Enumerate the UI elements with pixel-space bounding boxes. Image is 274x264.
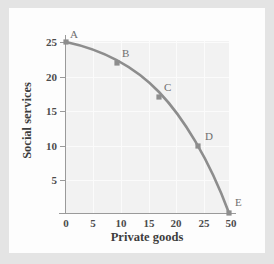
y-axis-line <box>65 35 66 214</box>
y-axis-tick <box>60 146 66 147</box>
x-tick-label-25: 25 <box>194 217 214 229</box>
gridline-horizontal <box>66 42 229 43</box>
x-axis-line <box>59 213 236 214</box>
y-tick-label-20: 20 <box>35 71 57 83</box>
x-tick-label-5: 5 <box>83 217 103 229</box>
x-tick-label-0: 0 <box>56 217 76 229</box>
y-tick-label-5: 5 <box>35 174 57 186</box>
figure-frame: A B C D E 25 20 15 10 5 0 5 10 15 20 25 … <box>0 0 274 264</box>
y-axis-tick <box>60 111 66 112</box>
gridline-horizontal <box>66 111 229 112</box>
gridline-horizontal <box>66 180 229 181</box>
gridline-vertical <box>176 41 177 213</box>
x-tick-label-50: 50 <box>221 217 241 229</box>
y-tick-label-15: 15 <box>35 105 57 117</box>
x-axis-title: Private goods <box>57 230 237 245</box>
gridline-horizontal <box>66 77 229 78</box>
gridline-vertical <box>204 41 205 213</box>
y-tick-label-10: 10 <box>35 140 57 152</box>
x-tick-label-15: 15 <box>139 217 159 229</box>
gridline-vertical <box>121 41 122 213</box>
plot-area <box>66 41 229 213</box>
y-axis-tick <box>60 180 66 181</box>
y-axis-title: Social services <box>20 61 35 181</box>
y-axis-tick <box>60 77 66 78</box>
point-label-a: A <box>70 28 78 40</box>
point-label-e: E <box>235 196 242 208</box>
x-tick-label-20: 20 <box>166 217 186 229</box>
x-tick-label-10: 10 <box>111 217 131 229</box>
point-label-b: B <box>122 47 129 59</box>
y-axis-tick <box>60 42 66 43</box>
figure-card: A B C D E 25 20 15 10 5 0 5 10 15 20 25 … <box>9 8 265 253</box>
gridline-vertical <box>149 41 150 213</box>
point-label-d: D <box>205 130 213 142</box>
point-label-c: C <box>164 81 171 93</box>
gridline-horizontal <box>66 146 229 147</box>
y-tick-label-25: 25 <box>35 36 57 48</box>
gridline-vertical <box>93 41 94 213</box>
